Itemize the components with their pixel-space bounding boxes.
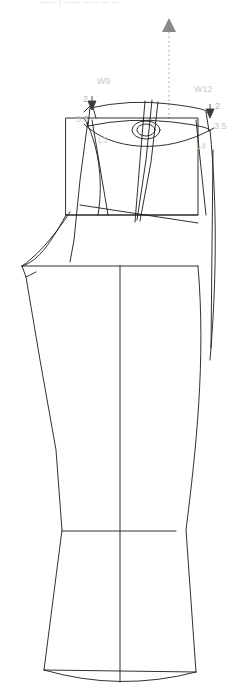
crotch-hook: [22, 266, 36, 277]
label-l4: L4: [196, 141, 206, 151]
crotch-curve-inner: [22, 215, 66, 266]
label-l3: L3: [98, 135, 108, 145]
label-w9: W9: [97, 76, 111, 86]
label-w12: W12: [194, 84, 213, 94]
waistband-top-edge: [90, 102, 206, 112]
leg-right-outline: [186, 266, 201, 672]
label-right-2: 2: [215, 101, 220, 111]
label-left-35: 3.5: [76, 114, 89, 124]
leader-right-arrowhead: [206, 109, 214, 118]
label-left-2: 2: [83, 94, 88, 104]
construction-rectangle-upper: [66, 118, 198, 215]
side-seam-left: [70, 120, 88, 262]
button-inner-circle: [137, 124, 155, 136]
grainline-arrowhead: [162, 18, 176, 32]
pattern-linework: [22, 100, 215, 682]
pattern-drawing-svg: W9 W12 2 2 3.5 3.5 L3 L4: [0, 0, 241, 696]
dimension-labels: W9 W12 2 2 3.5 3.5 L3 L4: [76, 76, 227, 151]
label-right-35: 3.5: [214, 121, 227, 131]
leader-left-arrowhead: [88, 101, 96, 110]
leg-left-outline: [26, 277, 62, 670]
pattern-drawing-canvas: — — | — — — — — —: [0, 0, 241, 696]
